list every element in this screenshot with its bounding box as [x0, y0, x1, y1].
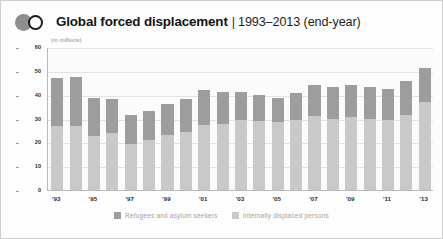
- bar: [180, 99, 192, 190]
- y-axis-tick-label: 60: [19, 45, 41, 51]
- bar-segment-idp: [272, 122, 284, 190]
- bar: [308, 85, 320, 190]
- legend-swatch: [232, 212, 239, 219]
- chart-title-subtitle: 1993–2013 (end-year): [238, 16, 361, 29]
- bar-segment-idp: [161, 135, 173, 190]
- y-axis-tick-label: 50: [19, 69, 41, 75]
- y-axis-tick-mark: [16, 96, 19, 97]
- legend-swatch: [114, 212, 121, 219]
- x-axis-tick-label: '07: [309, 195, 317, 202]
- legend-item: Internally displaced persons: [232, 212, 329, 219]
- bar-segment-idp: [143, 140, 155, 190]
- y-axis-tick-label: 0: [19, 188, 41, 194]
- bar: [400, 81, 412, 190]
- bar-segment-idp: [70, 126, 82, 190]
- bar-segment-idp: [235, 120, 247, 190]
- bar-segment-idp: [327, 119, 339, 191]
- bar: [382, 89, 394, 190]
- bar-segment-idp: [125, 144, 137, 190]
- bar-segment-refugees: [382, 89, 394, 121]
- gridline: [48, 72, 433, 73]
- y-axis-tick-mark: [16, 72, 19, 73]
- bar: [364, 87, 376, 190]
- x-axis-tick-label: '93: [52, 195, 60, 202]
- bar: [272, 98, 284, 190]
- logo: [15, 14, 49, 31]
- x-axis-tick-label: '05: [273, 195, 281, 202]
- bar-segment-idp: [290, 120, 302, 190]
- bar: [217, 92, 229, 190]
- legend-label: Internally displaced persons: [243, 212, 329, 219]
- bar-segment-idp: [217, 124, 229, 190]
- bar-segment-idp: [198, 125, 210, 190]
- bar-segment-idp: [400, 115, 412, 190]
- bar-segment-idp: [88, 136, 100, 190]
- y-axis-tick-label: 20: [19, 140, 41, 146]
- legend-label: Refugees and asylum seekers: [125, 212, 218, 219]
- chart-title: Global forced displacement | 1993–2013 (…: [56, 15, 361, 29]
- bar: [161, 104, 173, 191]
- bar-segment-idp: [364, 119, 376, 191]
- bar-segment-refugees: [290, 93, 302, 120]
- y-axis-tick-mark: [16, 167, 19, 168]
- bar: [51, 78, 63, 190]
- bar-segment-idp: [106, 133, 118, 190]
- bar: [235, 92, 247, 190]
- bar-segment-refugees: [272, 98, 284, 122]
- bar: [327, 87, 339, 190]
- bar-segment-refugees: [88, 98, 100, 136]
- bar-segment-idp: [51, 126, 63, 190]
- bar-segment-refugees: [125, 115, 137, 145]
- bar-segment-refugees: [400, 81, 412, 115]
- y-axis-units-label: (in millions): [51, 37, 82, 43]
- chart-title-main: Global forced displacement: [56, 15, 228, 28]
- bar: [253, 95, 265, 190]
- bar-segment-refugees: [364, 87, 376, 119]
- bar-segment-refugees: [253, 95, 265, 121]
- bar: [143, 111, 155, 190]
- x-axis-tick-label: '11: [383, 195, 391, 202]
- bar-segment-idp: [382, 120, 394, 190]
- x-axis-tick-label: '97: [126, 195, 134, 202]
- legend-item: Refugees and asylum seekers: [114, 212, 218, 219]
- bar-segment-refugees: [345, 85, 357, 117]
- plot-area: [47, 48, 433, 191]
- y-axis-tick-mark: [16, 48, 19, 49]
- plot-wrapper: [47, 48, 433, 191]
- bar-segment-refugees: [198, 90, 210, 125]
- x-axis-tick-label: '03: [236, 195, 244, 202]
- bar: [419, 68, 431, 190]
- y-axis-tick-label: 40: [19, 93, 41, 99]
- x-axis-tick-label: '01: [199, 195, 207, 202]
- x-axis-tick-label: '95: [89, 195, 97, 202]
- bar: [198, 90, 210, 190]
- x-axis-tick-label: '99: [162, 195, 170, 202]
- bar: [88, 98, 100, 190]
- bar-segment-refugees: [106, 99, 118, 133]
- bar-segment-idp: [419, 102, 431, 190]
- y-axis-tick-mark: [16, 143, 19, 144]
- ring-circle-icon: [28, 15, 43, 30]
- bar-segment-idp: [253, 121, 265, 190]
- bar-segment-refugees: [308, 85, 320, 116]
- bar-segment-refugees: [180, 99, 192, 131]
- bar-segment-refugees: [51, 78, 63, 126]
- bar-segment-refugees: [235, 92, 247, 121]
- x-axis-tick-label: '09: [346, 195, 354, 202]
- bar: [345, 85, 357, 190]
- bar-segment-refugees: [161, 104, 173, 135]
- bar-segment-refugees: [143, 111, 155, 140]
- bar-segment-idp: [308, 116, 320, 190]
- bar: [106, 99, 118, 190]
- chart-legend: Refugees and asylum seekersInternally di…: [1, 212, 442, 219]
- bar-segment-idp: [345, 117, 357, 190]
- bar: [70, 77, 82, 190]
- chart-header: Global forced displacement | 1993–2013 (…: [15, 10, 435, 34]
- y-axis-tick-label: 30: [19, 117, 41, 123]
- bar-segment-refugees: [327, 87, 339, 118]
- bar: [290, 93, 302, 190]
- y-axis-tick-mark: [16, 120, 19, 121]
- y-axis-tick-mark: [16, 191, 19, 192]
- chart-title-separator: |: [228, 16, 238, 29]
- bar-segment-refugees: [217, 92, 229, 124]
